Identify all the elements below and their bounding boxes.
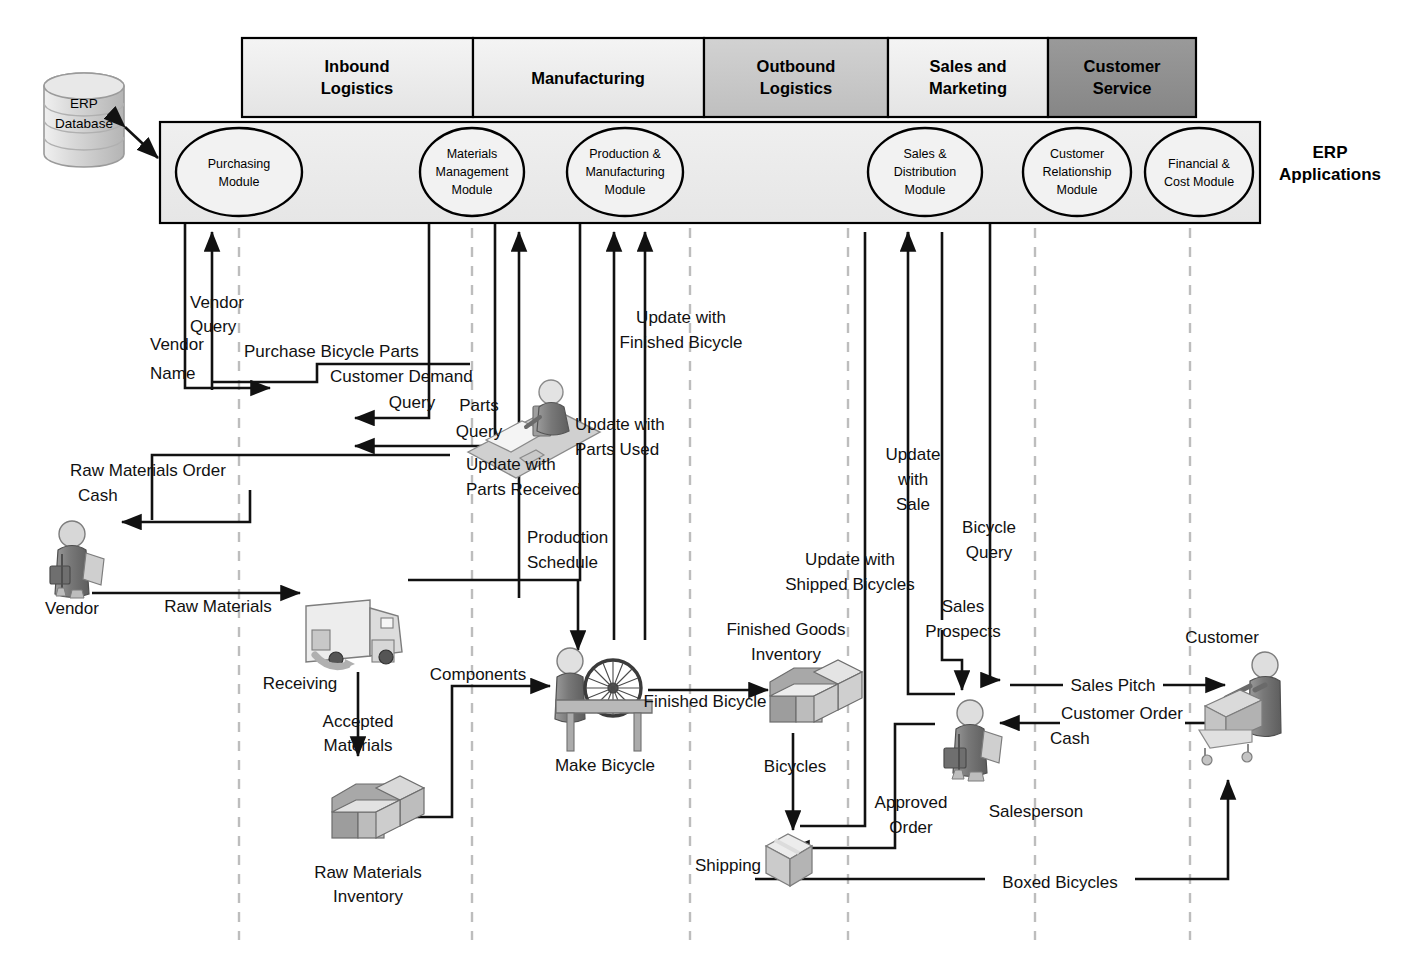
label-update-with-sale: Update with Sale <box>886 445 941 514</box>
svg-text:Query: Query <box>966 543 1013 562</box>
salesperson-icon <box>944 700 1002 781</box>
svg-text:Vendor: Vendor <box>150 335 204 354</box>
svg-text:Parts Received: Parts Received <box>466 480 581 499</box>
module-financial-cost[interactable]: Financial & Cost Module <box>1145 128 1253 216</box>
erp-database-label-line2: Database <box>55 116 113 131</box>
module-sales-distribution[interactable]: Sales & Distribution Module <box>868 128 982 216</box>
label-approved-order: Approved Order <box>875 793 948 837</box>
label-raw-materials: Raw Materials <box>164 597 272 616</box>
receiving-truck-icon <box>306 600 402 669</box>
svg-text:Parts: Parts <box>459 396 499 415</box>
svg-text:Production: Production <box>527 528 608 547</box>
svg-text:Shipped Bicycles: Shipped Bicycles <box>785 575 914 594</box>
label-finished-bicycle: Finished Bicycle <box>644 692 767 711</box>
svg-text:Receiving: Receiving <box>263 674 338 693</box>
module-production-line1: Production & <box>589 147 661 161</box>
label-update-with-shipped-bicycles: Update with Shipped Bicycles <box>785 550 914 594</box>
module-production-line3: Module <box>605 183 646 197</box>
label-sales-pitch: Sales Pitch <box>1070 676 1155 695</box>
label-boxed-bicycles: Boxed Bicycles <box>1002 873 1117 892</box>
svg-text:Salesperson: Salesperson <box>989 802 1084 821</box>
module-production-line2: Manufacturing <box>585 165 664 179</box>
svg-text:Materials: Materials <box>324 736 393 755</box>
module-materials-line2: Management <box>436 165 509 179</box>
erp-applications-label-line1: ERP <box>1313 143 1348 162</box>
module-materials-line1: Materials <box>447 147 498 161</box>
svg-text:Update with: Update with <box>636 308 726 327</box>
connector-bicycle-query <box>990 224 1000 680</box>
label-make-bicycle: Make Bicycle <box>555 756 655 775</box>
label-receiving: Receiving <box>263 674 338 693</box>
module-crm-line1: Customer <box>1050 147 1104 161</box>
svg-text:Sales: Sales <box>942 597 985 616</box>
module-purchasing[interactable]: Purchasing Module <box>176 128 302 216</box>
module-crm-line2: Relationship <box>1043 165 1112 179</box>
label-vendor-query: Vendor Query <box>190 293 244 336</box>
label-salesperson: Salesperson <box>989 802 1084 821</box>
svg-text:Prospects: Prospects <box>925 622 1001 641</box>
svg-text:Sale: Sale <box>896 495 930 514</box>
lane-header-manufacturing[interactable]: Manufacturing <box>473 38 704 117</box>
module-sales-line2: Distribution <box>894 165 957 179</box>
connector-update-with-shipped-bicycles <box>800 232 865 826</box>
label-customer-order: Customer Order <box>1061 704 1183 723</box>
svg-text:with: with <box>897 470 928 489</box>
svg-text:Raw Materials: Raw Materials <box>164 597 272 616</box>
svg-text:Query: Query <box>190 317 237 336</box>
svg-text:Update with: Update with <box>575 415 665 434</box>
svg-text:Boxed Bicycles: Boxed Bicycles <box>1002 873 1117 892</box>
module-customer-relationship[interactable]: Customer Relationship Module <box>1023 128 1131 216</box>
label-production-schedule: Production Schedule <box>527 528 608 572</box>
svg-text:Vendor: Vendor <box>45 599 99 618</box>
lane-header-sales-line2: Marketing <box>929 79 1007 97</box>
svg-text:Cash: Cash <box>1050 729 1090 748</box>
svg-text:Parts Used: Parts Used <box>575 440 659 459</box>
svg-text:Inventory: Inventory <box>333 887 403 906</box>
svg-text:Vendor: Vendor <box>190 293 244 312</box>
svg-text:Shipping: Shipping <box>695 856 761 875</box>
connector-cash-to-vendor <box>122 490 250 522</box>
svg-text:Name: Name <box>150 364 195 383</box>
label-update-with-finished-bicycle: Update with Finished Bicycle <box>620 308 743 352</box>
label-raw-materials-order: Raw Materials Order <box>70 461 226 480</box>
module-crm-line3: Module <box>1057 183 1098 197</box>
module-production-manufacturing[interactable]: Production & Manufacturing Module <box>567 128 683 216</box>
module-financial-line2: Cost Module <box>1164 175 1234 189</box>
connector-customer-demand-query <box>355 224 429 418</box>
svg-text:Update with: Update with <box>805 550 895 569</box>
erp-database-link-arrow <box>125 127 158 158</box>
label-finished-goods-inventory: Finished Goods Inventory <box>726 620 845 664</box>
module-purchasing-line1: Purchasing <box>208 157 271 171</box>
svg-text:Update with: Update with <box>466 455 556 474</box>
label-cash-vendor: Cash <box>78 486 118 505</box>
svg-text:Bicycles: Bicycles <box>764 757 826 776</box>
label-cash-customer: Cash <box>1050 729 1090 748</box>
label-components: Components <box>430 665 526 684</box>
lane-header-outbound[interactable]: Outbound Logistics <box>704 38 888 117</box>
label-bicycles: Bicycles <box>764 757 826 776</box>
svg-text:Finished Goods: Finished Goods <box>726 620 845 639</box>
label-customer: Customer <box>1185 628 1259 647</box>
module-financial-line1: Financial & <box>1168 157 1230 171</box>
svg-text:Order: Order <box>889 818 933 837</box>
svg-text:Bicycle: Bicycle <box>962 518 1016 537</box>
svg-text:Raw Materials Order: Raw Materials Order <box>70 461 226 480</box>
svg-text:Finished Bicycle: Finished Bicycle <box>620 333 743 352</box>
lane-header-inbound[interactable]: Inbound Logistics <box>242 38 473 117</box>
lane-header-sales[interactable]: Sales and Marketing <box>888 38 1048 117</box>
svg-text:Query: Query <box>389 393 436 412</box>
lane-header-customer-service[interactable]: Customer Service <box>1048 38 1196 117</box>
svg-text:Purchase Bicycle Parts: Purchase Bicycle Parts <box>244 342 419 361</box>
diagram-canvas: Inbound Logistics Manufacturing Outbound… <box>0 0 1409 966</box>
customer-icon <box>1199 652 1281 765</box>
svg-text:Query: Query <box>456 422 503 441</box>
svg-text:Customer Order: Customer Order <box>1061 704 1183 723</box>
vendor-icon <box>50 521 104 598</box>
erp-database[interactable]: ERP Database <box>44 73 124 167</box>
svg-text:Finished Bicycle: Finished Bicycle <box>644 692 767 711</box>
module-materials-management[interactable]: Materials Management Module <box>420 128 524 216</box>
lane-header-sales-line1: Sales and <box>929 57 1006 75</box>
raw-materials-inventory-icon <box>332 776 424 838</box>
module-purchasing-line2: Module <box>219 175 260 189</box>
label-raw-materials-inventory: Raw Materials Inventory <box>314 863 422 906</box>
